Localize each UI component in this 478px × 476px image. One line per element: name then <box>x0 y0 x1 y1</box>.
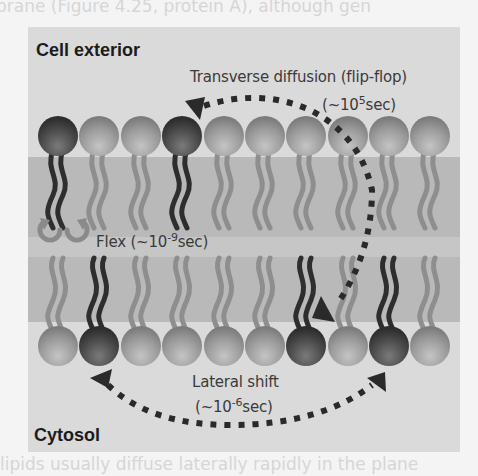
lateral-shift-time: (~10-6sec) <box>195 398 273 416</box>
flex-label: Flex (~10-9sec) <box>96 233 208 251</box>
phospholipid-head <box>38 326 78 366</box>
phospholipid-head-dark <box>162 116 202 156</box>
phospholipid-head-dark <box>38 116 78 156</box>
phospholipid-head <box>204 116 244 156</box>
phospholipid-head <box>369 116 409 156</box>
cytosol-label: Cytosol <box>34 425 100 446</box>
lateral-shift-label: Lateral shift <box>192 373 279 391</box>
lateral-right-arrowhead-icon <box>367 372 386 392</box>
flip-flop-arrowhead-icon <box>185 97 205 120</box>
phospholipid-head <box>286 116 326 156</box>
cell-exterior-label: Cell exterior <box>36 40 140 61</box>
phospholipid-head <box>410 116 450 156</box>
phospholipid-head <box>204 326 244 366</box>
phospholipid-head <box>121 326 161 366</box>
transverse-diffusion-label: Transverse diffusion (flip-flop) <box>190 68 407 86</box>
phospholipid-head-dark <box>286 326 326 366</box>
transverse-diffusion-time: (~105sec) <box>322 96 396 114</box>
phospholipid-head <box>121 116 161 156</box>
inner-leaflet-heads <box>38 326 450 366</box>
phospholipid-head <box>79 116 119 156</box>
phospholipid-head-dark <box>369 326 409 366</box>
phospholipid-head <box>328 326 368 366</box>
phospholipid-head <box>245 116 285 156</box>
outer-leaflet-heads <box>38 116 450 156</box>
phospholipid-head <box>162 326 202 366</box>
phospholipid-head <box>410 326 450 366</box>
phospholipid-head <box>245 326 285 366</box>
phospholipid-head-dark <box>79 326 119 366</box>
